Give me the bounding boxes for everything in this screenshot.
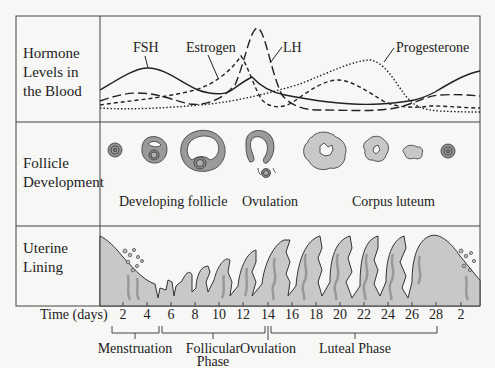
lh-label: LH bbox=[283, 40, 302, 55]
ovulation-follicle-label: Ovulation bbox=[242, 194, 298, 209]
svg-text:28: 28 bbox=[429, 307, 443, 322]
luteal-label: Luteal Phase bbox=[319, 341, 391, 356]
row-label-uterine: Uterine Lining bbox=[23, 240, 72, 275]
row-label-follicle: Follicle Development bbox=[23, 155, 105, 190]
primary-follicle-icon bbox=[108, 143, 122, 157]
estrogen-curve bbox=[100, 56, 480, 108]
follicle-illustrations bbox=[108, 130, 455, 177]
svg-text:18: 18 bbox=[309, 307, 323, 322]
luteal-bracket bbox=[271, 326, 437, 339]
mature-follicle-icon bbox=[181, 130, 225, 171]
fsh-label: FSH bbox=[133, 40, 159, 55]
svg-text:14: 14 bbox=[261, 307, 275, 322]
svg-text:12: 12 bbox=[236, 307, 250, 322]
uterine-tissue bbox=[100, 235, 480, 306]
svg-text:20: 20 bbox=[333, 307, 347, 322]
secondary-follicle-icon bbox=[142, 137, 167, 164]
svg-text:2: 2 bbox=[120, 307, 127, 322]
estrogen-label: Estrogen bbox=[186, 40, 236, 55]
time-axis-ticks: 2 4 6 8 10 12 14 16 18 20 22 24 26 28 2 bbox=[120, 307, 465, 322]
ovulation-phase-label: Ovulation bbox=[240, 341, 296, 356]
menstruation-bracket bbox=[112, 326, 159, 339]
time-axis-label: Time (days) bbox=[40, 307, 108, 323]
corpus-luteum-small-icon bbox=[403, 145, 423, 159]
corpus-luteum-label: Corpus luteum bbox=[352, 194, 435, 209]
svg-text:10: 10 bbox=[212, 307, 226, 322]
corpus-luteum-medium-icon bbox=[364, 136, 389, 161]
svg-text:26: 26 bbox=[405, 307, 419, 322]
svg-text:4: 4 bbox=[144, 307, 151, 322]
svg-text:2: 2 bbox=[458, 307, 465, 322]
follicular-bracket bbox=[162, 326, 265, 339]
phase-brackets bbox=[112, 326, 437, 340]
menstruation-label: Menstruation bbox=[98, 341, 173, 356]
hormone-labels: FSH Estrogen LH Progesterone bbox=[133, 40, 469, 78]
progesterone-label: Progesterone bbox=[396, 40, 469, 55]
row-label-hormone: Hormone Levels in the Blood bbox=[23, 45, 83, 99]
ovulation-follicle-icon bbox=[246, 131, 276, 178]
follicular-label-line2: Phase bbox=[197, 354, 230, 368]
svg-text:8: 8 bbox=[192, 307, 199, 322]
svg-text:24: 24 bbox=[381, 307, 395, 322]
developing-follicle-label: Developing follicle bbox=[119, 194, 227, 209]
phase-labels: Menstruation Follicular Phase Ovulation … bbox=[98, 341, 391, 368]
uterine-lining bbox=[100, 235, 480, 306]
svg-text:6: 6 bbox=[168, 307, 175, 322]
svg-text:22: 22 bbox=[357, 307, 371, 322]
svg-text:16: 16 bbox=[285, 307, 299, 322]
menstrual-cycle-diagram: Hormone Levels in the Blood Follicle Dev… bbox=[0, 0, 495, 368]
corpus-luteum-large-icon bbox=[304, 132, 346, 169]
new-primary-follicle-icon bbox=[441, 144, 455, 158]
